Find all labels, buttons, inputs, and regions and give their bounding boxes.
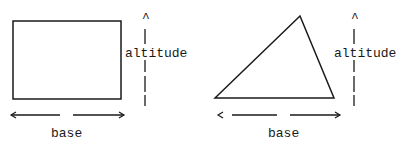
triangle-altitude-label: altitude bbox=[334, 46, 396, 61]
rectangle-altitude-indicator: ^ altitude bbox=[125, 11, 187, 106]
triangle-base-indicator: base bbox=[218, 112, 340, 141]
rectangle-base-label: base bbox=[51, 126, 82, 141]
triangle-base-label: base bbox=[268, 126, 299, 141]
rectangle-altitude-arrowhead-icon: ^ bbox=[142, 11, 150, 26]
rectangle-altitude-label: altitude bbox=[125, 46, 187, 61]
rectangle-shape bbox=[13, 21, 121, 99]
rectangle-figure: ^ altitude base bbox=[11, 11, 187, 141]
triangle-base-left-arrow-icon bbox=[218, 112, 223, 118]
diagram-canvas: ^ altitude base ^ altitude bbox=[0, 0, 416, 147]
triangle-altitude-arrowhead-icon: ^ bbox=[351, 11, 359, 26]
rectangle-base-indicator: base bbox=[11, 112, 124, 141]
triangle-shape bbox=[215, 16, 334, 98]
triangle-figure: ^ altitude base bbox=[215, 11, 396, 141]
triangle-altitude-indicator: ^ altitude bbox=[334, 11, 396, 106]
